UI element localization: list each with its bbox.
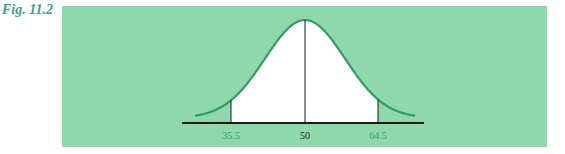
tick-label-left: 35.5: [222, 130, 240, 141]
tick-label-center: 50: [300, 130, 310, 141]
normal-curve-chart: 35.5 50 64.5: [0, 0, 565, 154]
tick-label-right: 64.5: [369, 130, 387, 141]
